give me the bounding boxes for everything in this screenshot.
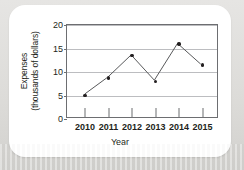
y-axis-title-line-1: Expenses (19, 19, 30, 123)
x-axis-tick-label: 2015 (192, 122, 212, 132)
x-axis-tick-mark (155, 108, 156, 117)
x-axis-tick-label: 2010 (75, 122, 95, 132)
y-axis-tick-label: 5 (58, 91, 63, 101)
x-axis-tick-mark (202, 108, 203, 117)
chart-card: Expenses (thousands of dollars) 05101520… (9, 5, 231, 157)
x-axis-tick-label: 2014 (169, 122, 189, 132)
y-axis-title: Expenses (thousands of dollars) (19, 0, 45, 19)
plot-area: 05101520 201020112012201320142015 (66, 24, 218, 118)
data-point (107, 76, 110, 79)
x-axis-tick-mark (132, 108, 133, 117)
y-axis-tick-label: 0 (58, 114, 63, 124)
y-axis-tick-label: 10 (53, 67, 63, 77)
data-point (83, 94, 86, 97)
data-point (201, 63, 204, 66)
x-axis-tick-mark (108, 108, 109, 117)
line-series (67, 25, 217, 117)
x-axis-tick-label: 2011 (99, 122, 119, 132)
x-axis-tick-mark (179, 108, 180, 117)
y-axis-tick-mark (64, 119, 67, 120)
x-axis-title: Year (9, 137, 231, 147)
x-axis-tick-label: 2012 (122, 122, 142, 132)
y-axis-tick-label: 20 (53, 20, 63, 30)
data-point (130, 54, 133, 57)
x-axis-tick-mark (85, 108, 86, 117)
y-axis-tick-label: 15 (53, 44, 63, 54)
x-axis-tick-label: 2013 (145, 122, 165, 132)
y-axis-title-line-2: (thousands of dollars) (30, 19, 41, 123)
screenshot-root: Expenses (thousands of dollars) 05101520… (0, 0, 244, 170)
data-point (177, 42, 180, 45)
